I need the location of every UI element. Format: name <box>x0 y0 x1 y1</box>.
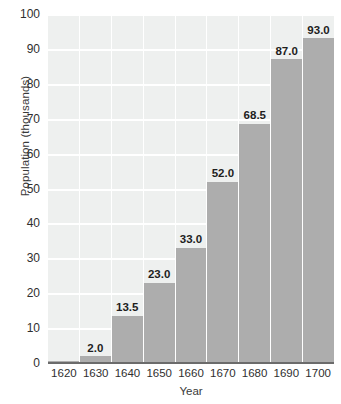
y-axis-tick-label-group: 0102030405060708090100 <box>0 0 45 404</box>
x-axis-tick-label: 1650 <box>143 366 175 384</box>
y-axis-tick-label: 80 <box>0 78 40 90</box>
y-axis-tick-label: 100 <box>0 8 40 20</box>
bar-group-1660[interactable]: 33.0 <box>176 14 208 363</box>
bar-chart-figure: Population (thousands) 01020304050607080… <box>0 0 341 404</box>
bar-value-label: 23.0 <box>148 269 170 281</box>
y-axis-tick-label: 0 <box>0 357 40 369</box>
bar[interactable] <box>207 182 238 363</box>
y-axis-tick-label: 40 <box>0 217 40 229</box>
bar-value-label: 68.5 <box>244 110 266 122</box>
x-axis-tick-label: 1630 <box>80 366 112 384</box>
bar[interactable] <box>271 59 302 363</box>
y-axis-tick-label: 20 <box>0 287 40 299</box>
x-axis-tick-label: 1680 <box>239 366 271 384</box>
bar-group-1690[interactable]: 87.0 <box>271 14 303 363</box>
bar-value-label: 2.0 <box>87 343 103 355</box>
bar-group-1630[interactable]: 2.0 <box>80 14 112 363</box>
x-axis-tick-label: 1690 <box>270 366 302 384</box>
y-axis-tick-label: 30 <box>0 252 40 264</box>
bar[interactable] <box>239 124 270 363</box>
y-axis-tick-label: 60 <box>0 148 40 160</box>
y-axis-tick-label: 50 <box>0 183 40 195</box>
bar[interactable] <box>176 248 207 363</box>
x-axis-tick-label: 1640 <box>112 366 144 384</box>
y-axis-tick-label: 10 <box>0 322 40 334</box>
y-axis-tick-label: 90 <box>0 43 40 55</box>
bar-value-label: 87.0 <box>275 46 297 58</box>
bar[interactable] <box>303 38 334 363</box>
x-axis-tick-label: 1670 <box>207 366 239 384</box>
bar-value-label: 33.0 <box>180 234 202 246</box>
x-axis-tick-label-group: 162016301640165016601670168016901700 <box>48 366 334 384</box>
bar-group-1700[interactable]: 93.0 <box>303 14 334 363</box>
bar-value-label: 52.0 <box>212 168 234 180</box>
bar-value-label: 13.5 <box>116 302 138 314</box>
bar-group-1680[interactable]: 68.5 <box>239 14 271 363</box>
bar[interactable] <box>144 283 175 363</box>
plot-area: 2.013.523.033.052.068.587.093.0 <box>48 14 334 363</box>
x-axis-tick-label: 1620 <box>48 366 80 384</box>
x-axis-line <box>48 362 334 364</box>
bar-group-1650[interactable]: 23.0 <box>144 14 176 363</box>
x-axis-title: Year <box>48 385 334 397</box>
bar[interactable] <box>112 316 143 363</box>
bar-group-1640[interactable]: 13.5 <box>112 14 144 363</box>
y-axis-tick-label: 70 <box>0 113 40 125</box>
bar-group-1620[interactable] <box>48 14 80 363</box>
bar-group-1670[interactable]: 52.0 <box>207 14 239 363</box>
bar-value-label: 93.0 <box>307 25 329 37</box>
x-axis-tick-label: 1700 <box>302 366 334 384</box>
bar-series-group: 2.013.523.033.052.068.587.093.0 <box>48 14 334 363</box>
x-axis-tick-label: 1660 <box>175 366 207 384</box>
